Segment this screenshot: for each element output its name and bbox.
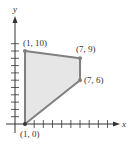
vertex-point <box>78 78 82 82</box>
feasible-region <box>25 51 80 124</box>
label-1-10: (1, 10) <box>23 38 47 48</box>
chart-canvas: y x (1, 10) (7, 9) (7, 6) (1, 0) <box>0 0 132 146</box>
vertex-point <box>23 122 27 126</box>
label-7-6: (7, 6) <box>84 75 104 85</box>
label-7-9: (7, 9) <box>76 44 96 54</box>
x-axis-label: x <box>121 119 126 129</box>
x-axis-arrow-icon <box>113 122 120 127</box>
vertex-point <box>23 49 27 53</box>
y-axis-label: y <box>12 4 17 14</box>
y-axis-arrow-icon <box>13 16 18 23</box>
label-1-0: (1, 0) <box>20 129 40 139</box>
vertex-point <box>78 56 82 60</box>
